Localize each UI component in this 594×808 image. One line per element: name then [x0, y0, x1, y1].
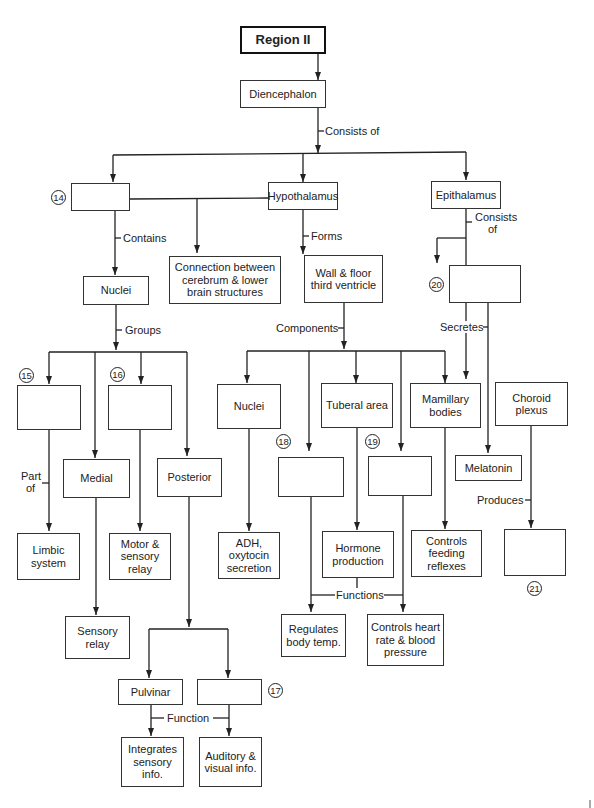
adh-oxytocin-node: ADH, oxytocin secretion [218, 532, 280, 579]
medial-node: Medial [63, 459, 130, 498]
number-14-marker: 14 [51, 190, 66, 205]
diencephalon-node: Diencephalon [240, 80, 326, 108]
melatonin-node: Melatonin [455, 455, 522, 481]
blank-node-14 [71, 183, 130, 211]
label-components: Components [276, 322, 338, 334]
label-part-of: of [26, 482, 35, 494]
auditory-visual-node: Auditory & visual info. [199, 737, 262, 787]
number-18-marker: 18 [276, 434, 291, 449]
posterior-node: Posterior [157, 458, 222, 497]
blank-node-16 [108, 385, 172, 430]
label-epi-consists: Consists [475, 211, 517, 223]
hypothalamus-nuclei-node: Nuclei [217, 384, 281, 429]
blank-node-18 [278, 457, 344, 497]
label-produces: Produces [477, 494, 523, 506]
number-20-marker: 20 [429, 277, 444, 292]
number-21-marker: 21 [527, 581, 542, 596]
label-secretes: Secretes [440, 321, 483, 333]
controls-feeding-node: Controls feeding reflexes [411, 530, 482, 577]
regulates-body-temp-node: Regulates body temp. [281, 614, 346, 657]
label-epi-of: of [488, 223, 497, 235]
hormone-production-node: Hormone production [322, 531, 394, 578]
connection-node: Connection between cerebrum & lower brai… [169, 256, 281, 304]
number-19-marker: 19 [365, 434, 380, 449]
mamillary-bodies-node: Mamillary bodies [410, 383, 481, 428]
number-15-marker: 15 [19, 368, 34, 383]
label-part: Part [21, 470, 41, 482]
blank-node-19 [368, 456, 432, 496]
limbic-system-node: Limbic system [17, 533, 80, 580]
pulvinar-node: Pulvinar [118, 679, 183, 705]
blank-node-20 [449, 265, 521, 303]
sensory-relay-node: Sensory relay [65, 616, 130, 659]
thalamus-nuclei-node: Nuclei [83, 276, 149, 305]
blank-node-15 [17, 385, 81, 430]
number-17-marker: 17 [268, 683, 283, 698]
label-functions: Functions [336, 589, 384, 601]
epithalamus-node: Epithalamus [431, 181, 501, 209]
label-function: Function [167, 712, 209, 724]
number-16-marker: 16 [110, 367, 125, 382]
wall-floor-node: Wall & floor third ventricle [304, 255, 383, 303]
label-forms: Forms [311, 230, 342, 242]
blank-node-17 [197, 679, 262, 705]
tuberal-area-node: Tuberal area [321, 383, 393, 428]
integrates-sensory-node: Integrates sensory info. [121, 737, 184, 787]
controls-heart-rate-node: Controls heart rate & blood pressure [367, 614, 444, 666]
blank-node-21 [504, 529, 566, 576]
label-consists-of: Consists of [325, 125, 379, 137]
label-contains: Contains [123, 232, 166, 244]
choroid-plexus-node: Choroid plexus [495, 382, 568, 426]
hypothalamus-node: Hypothalamus [268, 182, 338, 210]
label-groups: Groups [125, 324, 161, 336]
motor-sensory-relay-node: Motor & sensory relay [109, 533, 171, 580]
region-ii-title: Region II [240, 26, 326, 54]
